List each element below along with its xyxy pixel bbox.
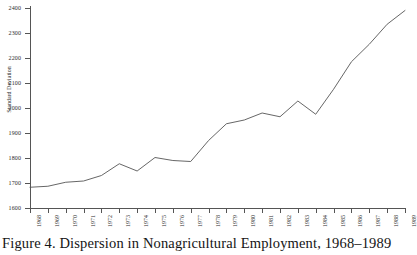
y-axis-tick-label: 1700 <box>0 180 21 186</box>
y-axis-tick <box>25 158 30 159</box>
y-axis-tick-label: 1800 <box>0 155 21 161</box>
y-axis-tick <box>25 83 30 84</box>
x-axis-tick <box>262 209 263 213</box>
plot-area <box>30 8 405 208</box>
y-axis-line <box>30 6 31 209</box>
y-axis-tick <box>25 58 30 59</box>
x-axis-tick <box>119 209 120 213</box>
x-axis-tick <box>226 209 227 213</box>
x-axis-line <box>30 208 406 209</box>
y-axis-tick <box>25 33 30 34</box>
x-axis-tick <box>244 209 245 213</box>
x-axis-tick <box>387 209 388 213</box>
x-axis-tick <box>155 209 156 213</box>
x-axis-tick-label: 1988 <box>393 215 399 241</box>
x-axis-tick <box>137 209 138 213</box>
data-series-line <box>30 11 405 188</box>
x-axis-tick-label: 1989 <box>411 215 417 241</box>
y-axis-tick <box>25 8 30 9</box>
x-axis-tick <box>209 209 210 213</box>
x-axis-tick <box>351 209 352 213</box>
x-axis-tick <box>66 209 67 213</box>
x-axis-tick <box>173 209 174 213</box>
x-axis-tick <box>84 209 85 213</box>
x-axis-tick <box>316 209 317 213</box>
y-axis-tick-label: 1600 <box>0 205 21 211</box>
x-axis-tick <box>334 209 335 213</box>
y-axis-tick <box>25 133 30 134</box>
y-axis-title: Standard Deviation <box>6 50 13 130</box>
y-axis-tick <box>25 183 30 184</box>
x-axis-tick <box>298 209 299 213</box>
x-axis-tick <box>369 209 370 213</box>
figure-caption: Figure 4. Dispersion in Nonagricultural … <box>2 234 391 252</box>
x-axis-tick <box>48 209 49 213</box>
x-axis-tick <box>101 209 102 213</box>
y-axis-tick-label: 1900 <box>0 130 21 136</box>
y-axis-tick <box>25 108 30 109</box>
y-axis-tick-label: 2400 <box>0 5 21 11</box>
y-axis-tick-label: 2300 <box>0 30 21 36</box>
x-axis-tick <box>191 209 192 213</box>
line-chart-svg <box>30 8 405 208</box>
x-axis-tick <box>405 209 406 213</box>
x-axis-tick <box>30 209 31 213</box>
x-axis-tick <box>280 209 281 213</box>
